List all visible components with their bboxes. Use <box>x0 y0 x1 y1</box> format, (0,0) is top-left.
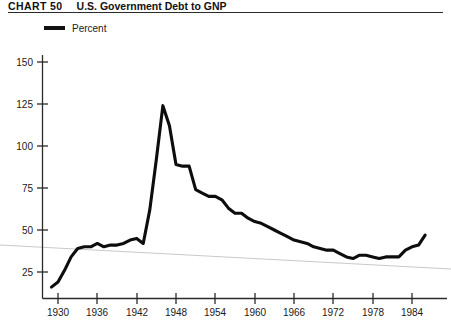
x-tick-label: 1942 <box>126 307 149 318</box>
x-tick-label: 1966 <box>283 307 306 318</box>
y-tick-label: 100 <box>16 141 33 152</box>
axes: 150 125 100 75 50 25 1930 <box>16 55 447 318</box>
y-tick-label: 50 <box>22 225 34 236</box>
y-tick-label: 75 <box>22 183 34 194</box>
data-series-group <box>51 106 425 287</box>
x-tick-label: 1960 <box>244 307 267 318</box>
data-line-percent <box>51 106 425 287</box>
x-tick-label: 1984 <box>401 307 424 318</box>
chart-page: CHART 50U.S. Government Debt to GNP Perc… <box>0 0 451 335</box>
x-tick-label: 1978 <box>362 307 385 318</box>
x-tick-label: 1954 <box>204 307 227 318</box>
y-tick-label: 150 <box>16 57 33 68</box>
x-tick-label: 1930 <box>47 307 70 318</box>
y-tick-label: 25 <box>22 267 34 278</box>
y-tick-label: 125 <box>16 99 33 110</box>
x-tick-label: 1972 <box>322 307 345 318</box>
x-axis-tick-labels: 1930 1936 1942 1948 1954 1960 1966 1972 … <box>47 307 424 318</box>
x-tick-label: 1948 <box>165 307 188 318</box>
chart-plot-area: 150 125 100 75 50 25 1930 <box>0 0 451 335</box>
x-tick-label: 1936 <box>86 307 109 318</box>
y-axis-tick-labels: 150 125 100 75 50 25 <box>16 57 33 278</box>
